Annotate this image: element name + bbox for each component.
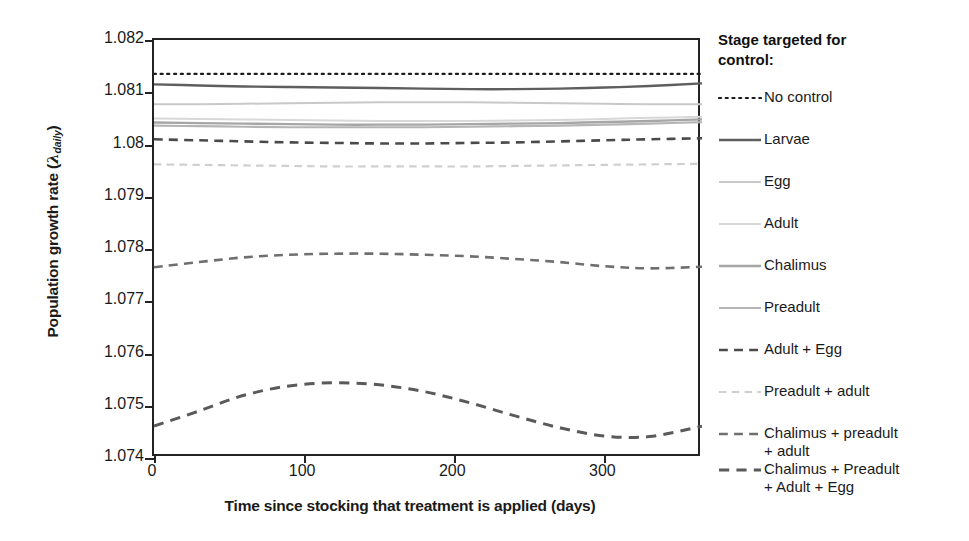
legend-item-label: Adult + Egg (764, 340, 842, 358)
legend-item[interactable]: Larvae (718, 130, 966, 148)
legend-item[interactable]: Chalimus + Preadult + Adult + Egg (718, 460, 966, 496)
legend-line-swatch-icon (718, 133, 762, 147)
legend-item[interactable]: No control (718, 88, 966, 106)
y-tick-label: 1.077 (44, 291, 144, 307)
legend-item[interactable]: Chalimus (718, 256, 966, 274)
figure-container: Population growth rate (λdaily) 1.0741.0… (0, 0, 969, 541)
legend-item[interactable]: Adult (718, 214, 966, 232)
legend-item-label: Chalimus + preadult + adult (764, 424, 898, 460)
legend-item[interactable]: Chalimus + preadult + adult (718, 424, 966, 460)
legend-line-swatch-icon (718, 427, 762, 441)
legend-item[interactable]: Preadult (718, 298, 966, 316)
legend-line-swatch-icon (718, 463, 762, 477)
y-tick-label: 1.078 (44, 239, 144, 255)
legend: Stage targeted for control: No controlLa… (718, 30, 966, 75)
y-tick-label: 1.08 (44, 135, 144, 151)
legend-item-label: Larvae (764, 130, 810, 148)
legend-item-label: Chalimus + Preadult + Adult + Egg (764, 460, 899, 496)
x-tick-label: 0 (112, 462, 192, 480)
legend-line-swatch-icon (718, 301, 762, 315)
legend-item-label: Preadult + adult (764, 382, 870, 400)
legend-item-label: Preadult (764, 298, 820, 316)
legend-item-label: Chalimus (764, 256, 827, 274)
legend-title: Stage targeted for control: (718, 30, 898, 70)
legend-item[interactable]: Preadult + adult (718, 382, 966, 400)
x-tick-label: 100 (262, 462, 342, 480)
legend-line-swatch-icon (718, 175, 762, 189)
legend-line-swatch-icon (718, 259, 762, 273)
x-tick-label-group: 0100200300 (152, 0, 700, 541)
legend-item[interactable]: Adult + Egg (718, 340, 966, 358)
legend-line-swatch-icon (718, 91, 762, 105)
legend-item[interactable]: Egg (718, 172, 966, 190)
legend-item-label: No control (764, 88, 832, 106)
legend-item-label: Egg (764, 172, 791, 190)
x-axis-title: Time since stocking that treatment is ap… (60, 497, 760, 515)
x-tick-label: 300 (562, 462, 642, 480)
y-tick-label-group: 1.0741.0751.0761.0771.0781.0791.081.0811… (40, 0, 144, 541)
legend-line-swatch-icon (718, 217, 762, 231)
legend-line-swatch-icon (718, 385, 762, 399)
x-tick-label: 200 (412, 462, 492, 480)
y-tick-label: 1.075 (44, 396, 144, 412)
y-tick-label: 1.076 (44, 344, 144, 360)
y-tick-label: 1.082 (44, 30, 144, 46)
y-tick-label: 1.079 (44, 187, 144, 203)
legend-line-swatch-icon (718, 343, 762, 357)
y-tick-label: 1.081 (44, 82, 144, 98)
legend-item-label: Adult (764, 214, 798, 232)
